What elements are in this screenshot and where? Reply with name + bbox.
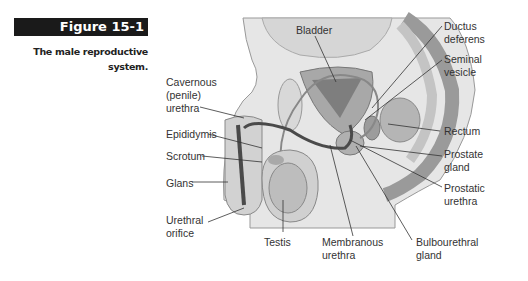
label-bladder: Bladder bbox=[296, 24, 332, 37]
label-prostate-gland-1: Prostate bbox=[444, 148, 483, 161]
label-bulbourethral-gland-2: gland bbox=[416, 249, 442, 262]
label-glans: Glans bbox=[166, 177, 193, 190]
label-ductus-deferens-2: deferens bbox=[444, 33, 485, 46]
label-seminal-vesicle-2: vesicle bbox=[444, 66, 476, 79]
label-ductus-deferens-1: Ductus bbox=[444, 20, 477, 33]
label-urethral-orifice-2: orifice bbox=[166, 227, 194, 240]
label-bulbourethral-gland-1: Bulbourethral bbox=[416, 236, 478, 249]
label-cavernous-urethra-3: urethra bbox=[166, 102, 199, 115]
label-cavernous-urethra-2: (penile) bbox=[166, 89, 201, 102]
label-prostate-gland-2: gland bbox=[444, 161, 470, 174]
label-membranous-urethra-2: urethra bbox=[322, 249, 355, 262]
label-scrotum: Scrotum bbox=[166, 150, 205, 163]
label-urethral-orifice-1: Urethral bbox=[166, 214, 203, 227]
label-rectum: Rectum bbox=[444, 125, 480, 138]
label-membranous-urethra-1: Membranous bbox=[322, 236, 383, 249]
label-cavernous-urethra-1: Cavernous bbox=[166, 76, 217, 89]
label-prostatic-urethra-1: Prostatic bbox=[444, 182, 485, 195]
label-prostatic-urethra-2: urethra bbox=[444, 195, 477, 208]
label-epididymis: Epididymis bbox=[166, 128, 217, 141]
label-seminal-vesicle-1: Seminal bbox=[444, 53, 482, 66]
label-testis: Testis bbox=[264, 236, 291, 249]
